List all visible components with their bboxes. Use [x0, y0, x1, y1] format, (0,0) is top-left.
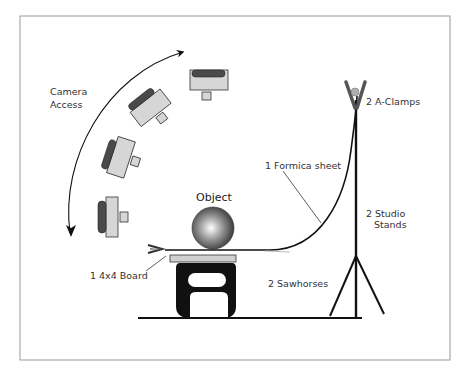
board-label: 1 4x4 Board — [90, 270, 148, 281]
board-4x4 — [170, 255, 236, 262]
sawhorses-label: 2 Sawhorses — [268, 278, 328, 289]
object-sphere — [192, 207, 234, 249]
studio-stands-label: 2 Studio — [366, 208, 406, 219]
studio-setup-diagram: Camera Access Object 1 4x4 Board — [0, 0, 465, 376]
formica-label: 1 Formica sheet — [265, 160, 341, 171]
object-label: Object — [196, 191, 233, 204]
camera-access-label-2: Access — [50, 99, 83, 110]
sawhorses — [176, 263, 236, 318]
studio-stands-label-2: Stands — [374, 219, 407, 230]
a-clamps-label: 2 A-Clamps — [366, 96, 420, 107]
camera-access-label: Camera — [50, 86, 87, 97]
